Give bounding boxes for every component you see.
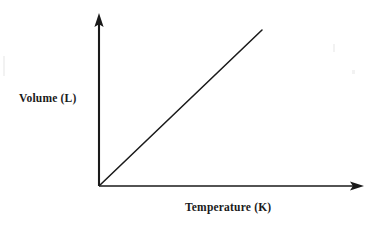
y-axis-label: Volume (L)	[19, 92, 76, 104]
plot-area	[0, 0, 380, 229]
x-axis-label: Temperature (K)	[185, 201, 271, 213]
data-line-volume-vs-temperature	[100, 30, 263, 186]
graph-canvas: Volume (L) Temperature (K)	[0, 0, 380, 229]
